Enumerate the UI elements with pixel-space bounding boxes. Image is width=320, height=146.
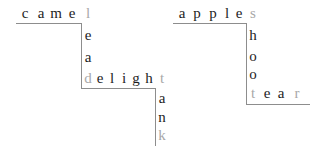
letter-cell-camel-3: e xyxy=(65,5,79,22)
letter-cell-camel-1: a xyxy=(34,5,48,22)
letter-cell-apples-4: e xyxy=(232,5,246,22)
letter-cell-shoot-2: o xyxy=(246,48,260,65)
letter-cell-tear-2: a xyxy=(274,85,288,102)
letter-cell-camel-0: c xyxy=(18,5,32,22)
letter-cell-apples-1: p xyxy=(190,5,204,22)
letter-cell-apples-2: p xyxy=(206,5,220,22)
word-staircase-puzzle: cameleadelightankappleshootear xyxy=(0,0,320,146)
letter-cell-shoot-3: o xyxy=(246,66,260,83)
rule-under-apples xyxy=(173,23,247,24)
letter-cell-delight-4: g xyxy=(129,70,143,87)
rule-under-delight xyxy=(81,88,156,89)
letter-cell-tear-1: e xyxy=(260,85,274,102)
letter-cell-tank-1: a xyxy=(155,90,169,107)
letter-cell-shoot-1: h xyxy=(246,27,260,44)
letter-cell-camel-2: m xyxy=(49,5,63,22)
letter-cell-lead-2: a xyxy=(81,49,95,66)
letter-cell-tear-3: r xyxy=(290,85,304,102)
letter-cell-shoot-4: t xyxy=(246,85,260,102)
rule-under-tear xyxy=(246,104,310,105)
rule-under-camel xyxy=(16,23,82,24)
letter-cell-delight-5: h xyxy=(142,70,156,87)
letter-cell-delight-6: t xyxy=(155,70,169,87)
letter-cell-apples-5: s xyxy=(246,5,260,22)
letter-cell-tank-2: n xyxy=(155,109,169,126)
letter-cell-camel-4: l xyxy=(81,5,95,22)
letter-cell-tank-3: k xyxy=(155,127,169,144)
letter-cell-lead-1: e xyxy=(81,27,95,44)
letter-cell-apples-0: a xyxy=(175,5,189,22)
